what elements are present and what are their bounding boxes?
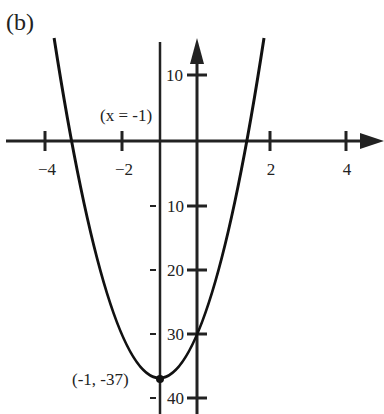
x-tick-label: −2 (115, 160, 133, 179)
y-tick-label: 20 (167, 261, 184, 280)
x-tick-label: 4 (343, 160, 352, 179)
axis-of-symmetry-label: (x = -1) (100, 106, 152, 125)
y-tick-label: 10 (166, 66, 183, 85)
x-axis: −4 −2 2 4 (6, 131, 384, 179)
vertex-label: (-1, -37) (72, 370, 129, 389)
x-tick-label: −4 (38, 160, 57, 179)
y-tick-label: 30 (167, 325, 184, 344)
vertex-point (156, 375, 164, 383)
y-tick-label: 10 (167, 197, 184, 216)
parabola-chart: (b) −4 −2 2 4 10 10 20 30 40 (x = -1) (0, 0, 384, 414)
panel-label: (b) (6, 9, 34, 35)
y-axis: 10 10 20 30 40 (150, 38, 207, 414)
y-tick-label: 40 (167, 389, 184, 408)
x-tick-label: 2 (267, 160, 276, 179)
y-axis-arrow-icon (190, 38, 204, 64)
x-axis-arrow-icon (360, 133, 384, 149)
